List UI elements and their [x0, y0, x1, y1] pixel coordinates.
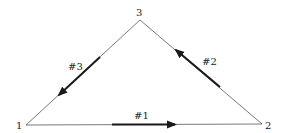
node-label-2: 2: [265, 120, 271, 131]
triangle-diagram: 1 2 3 #1 #2 #3: [0, 0, 287, 133]
member-label-3: #3: [68, 61, 83, 72]
node-label-3: 3: [136, 7, 142, 18]
node-label-1: 1: [16, 120, 22, 131]
member-label-2: #2: [202, 56, 217, 67]
member-label-1: #1: [134, 110, 149, 121]
